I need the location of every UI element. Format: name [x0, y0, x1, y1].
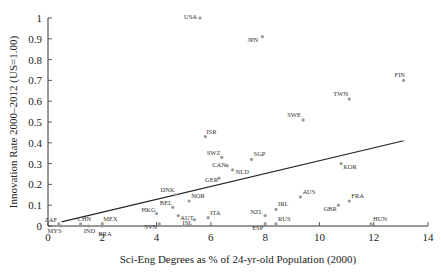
point-label: SVN	[144, 223, 157, 230]
data-point-isl: ISL	[183, 218, 197, 226]
y-tick-label: 0.6	[28, 95, 42, 107]
point-label: CAN	[212, 161, 226, 168]
point-label: ESP	[252, 224, 264, 231]
data-point-twn: TWN	[333, 90, 351, 101]
point-label: ZAF	[45, 216, 58, 223]
y-axis: 00.10.20.30.40.50.60.70.80.91	[28, 12, 52, 232]
point-label: DNK	[161, 186, 175, 193]
scatter-chart: 00.10.20.30.40.50.60.70.80.91 0246810121…	[0, 0, 441, 273]
point-label: BEL	[160, 199, 172, 206]
data-point-hkg: HKG	[142, 206, 159, 216]
data-point-jpn: JPN	[247, 35, 264, 43]
point-marker	[79, 222, 82, 225]
data-point-kor: KOR	[340, 162, 358, 170]
point-marker	[174, 193, 177, 196]
x-axis-title: Sci-Eng Degrees as % of 24-yr-old Popula…	[120, 253, 357, 266]
point-label: MEX	[103, 215, 118, 222]
point-marker	[274, 208, 277, 211]
y-tick-label: 0.7	[28, 74, 42, 86]
point-marker	[204, 135, 207, 138]
data-point-nld: NLD	[231, 168, 249, 175]
point-label: IND	[84, 227, 96, 234]
point-marker	[348, 199, 351, 202]
data-point-swz: SWZ	[207, 149, 224, 159]
data-point-sgp: SGP	[250, 150, 266, 161]
data-point-usa: USA	[184, 13, 202, 20]
data-point-fin: FIN	[395, 71, 406, 82]
data-point-can: CAN	[212, 161, 229, 168]
point-label: IRL	[278, 200, 289, 207]
point-marker	[348, 98, 351, 101]
point-marker	[337, 204, 340, 207]
point-label: TWN	[333, 90, 348, 97]
point-label: HUN	[373, 215, 387, 222]
point-label: SWE	[287, 111, 301, 118]
point-marker	[261, 35, 264, 38]
data-point-esp: ESP	[252, 222, 267, 231]
data-point-zaf: ZAF	[45, 216, 61, 226]
point-marker	[101, 224, 104, 227]
point-marker	[264, 222, 267, 225]
point-marker	[207, 216, 210, 219]
data-point-dnk: DNK	[161, 186, 178, 197]
x-tick-label: 6	[208, 231, 214, 243]
point-label: SWZ	[207, 149, 221, 156]
point-marker	[302, 118, 305, 121]
data-point-rus: RUS	[274, 215, 291, 226]
point-marker	[264, 214, 267, 217]
y-tick-label: 0.4	[28, 137, 42, 149]
data-point-aus: AUS	[299, 188, 316, 199]
data-point-mex: MEX	[101, 215, 118, 226]
point-marker	[220, 156, 223, 159]
y-tick-label: 0.8	[28, 54, 42, 66]
y-tick-label: 0.2	[28, 178, 42, 190]
data-point-chn: CHN	[78, 215, 92, 226]
x-tick-label: 12	[368, 231, 379, 243]
point-marker	[299, 195, 302, 198]
data-point-ger: GER	[205, 176, 221, 183]
point-marker	[231, 168, 234, 171]
point-label: ISR	[206, 128, 217, 135]
point-marker	[198, 16, 201, 19]
point-marker	[193, 218, 196, 221]
point-label: USA	[184, 13, 197, 20]
y-axis-title: Innovation Rate 2000–2012 (US=1.00)	[7, 35, 20, 208]
regression-line	[62, 141, 404, 222]
point-label: HKG	[142, 206, 156, 213]
x-tick-label: 14	[423, 231, 435, 243]
point-label: NOR	[191, 192, 205, 199]
data-point-nor: NOR	[188, 192, 206, 203]
point-label: GBR	[323, 205, 337, 212]
x-tick-label: 8	[262, 231, 268, 243]
point-marker	[402, 79, 405, 82]
data-points: USAJPNFINTWNSWEISRSWZSGPCANNLDGERKORDNKN…	[45, 13, 405, 237]
trendline	[62, 141, 404, 222]
point-label: RUS	[278, 215, 291, 222]
point-label: NZL	[250, 208, 263, 215]
y-tick-label: 0.1	[28, 199, 42, 211]
y-tick-label: 0	[37, 220, 43, 232]
data-point-hun: HUN	[369, 215, 387, 226]
point-marker	[158, 222, 161, 225]
y-tick-label: 0.3	[28, 158, 42, 170]
data-point-bel: BEL	[160, 199, 175, 209]
point-marker	[250, 158, 253, 161]
data-point-ita: ITA	[207, 209, 221, 220]
point-marker	[226, 164, 229, 167]
point-label: FIN	[395, 71, 406, 78]
point-label: SGP	[254, 150, 266, 157]
data-point-swe: SWE	[287, 111, 305, 122]
point-marker	[369, 222, 372, 225]
point-label: ISL	[183, 219, 193, 226]
point-marker	[188, 199, 191, 202]
data-point-nzl: NZL	[250, 208, 267, 218]
data-point-isr: ISR	[204, 128, 217, 139]
point-label: FRA	[351, 192, 364, 199]
y-tick-label: 0.9	[28, 33, 42, 45]
data-point-irl: IRL	[274, 200, 288, 211]
point-label: JPN	[247, 36, 258, 43]
point-label: ITA	[210, 209, 221, 216]
point-label: MYS	[48, 227, 62, 234]
point-label: GER	[205, 176, 219, 183]
x-tick-label: 4	[154, 231, 160, 243]
